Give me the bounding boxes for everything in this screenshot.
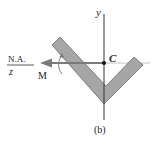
z-axis-label: z — [9, 67, 13, 77]
angle-section-diagram — [0, 0, 154, 143]
moment-curl-arrow — [59, 55, 62, 74]
moment-label: M — [38, 71, 47, 81]
centroid-point — [102, 61, 106, 65]
centroid-label: C — [109, 53, 116, 64]
angle-section-shape — [52, 37, 143, 104]
moment-arrowhead — [40, 59, 52, 68]
figure-caption: (b) — [94, 125, 106, 135]
neutral-axis-label: N.A. — [8, 55, 26, 64]
y-axis-label: y — [96, 7, 101, 18]
